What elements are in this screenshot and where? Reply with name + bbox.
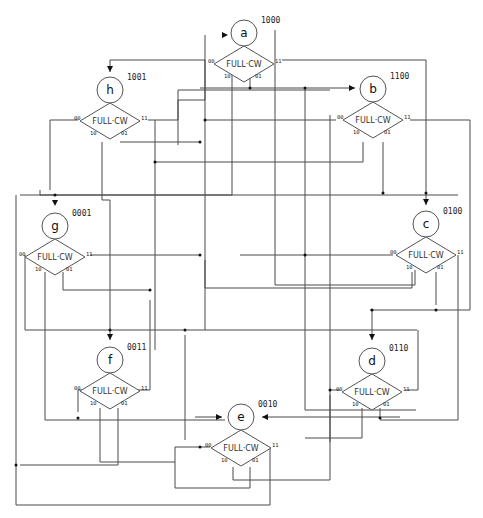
port-label-right: 11 <box>141 115 148 121</box>
port-label-bottom-left: 10 <box>406 264 413 270</box>
state-letter: h <box>106 83 114 97</box>
state-letter: b <box>369 82 377 96</box>
port-label-left: 00 <box>390 249 397 255</box>
port-label-bottom-left: 10 <box>224 73 231 79</box>
condition-label: FULL·CW <box>37 253 73 262</box>
port-label-bottom-right: 01 <box>121 400 128 406</box>
state-code: 0100 <box>443 207 462 216</box>
port-label-left: 00 <box>74 115 81 121</box>
state-letter: e <box>237 410 244 424</box>
port-label-bottom-left: 10 <box>90 400 97 406</box>
state-e: e0010FULL·CW00111001 <box>205 400 279 466</box>
condition-label: FULL·CW <box>354 388 390 397</box>
condition-label: FULL·CW <box>92 387 128 396</box>
condition-label: FULL·CW <box>226 60 262 69</box>
state-nodes: a1000FULL·CW00111001h1001FULL·CW00111001… <box>19 16 464 466</box>
port-label-right: 11 <box>272 442 279 448</box>
port-label-bottom-right: 01 <box>383 401 390 407</box>
port-label-left: 00 <box>336 386 343 392</box>
condition-label: FULL·CW <box>408 251 444 260</box>
state-g: g0001FULL·CW00111001 <box>19 209 93 275</box>
port-label-bottom-right: 01 <box>384 129 391 135</box>
condition-label: FULL·CW <box>92 117 128 126</box>
state-f: f0011FULL·CW00111001 <box>74 343 148 409</box>
state-b: b1100FULL·CW00111001 <box>337 72 411 138</box>
port-label-left: 00 <box>74 385 81 391</box>
port-label-right: 11 <box>86 251 93 257</box>
state-code: 0110 <box>389 344 408 353</box>
port-label-bottom-right: 01 <box>66 266 73 272</box>
port-label-bottom-left: 10 <box>221 457 228 463</box>
state-c: c0100FULL·CW00111001 <box>390 207 464 273</box>
port-label-right: 11 <box>457 249 464 255</box>
state-letter: a <box>240 26 247 40</box>
port-label-bottom-left: 10 <box>352 401 359 407</box>
state-code: 1000 <box>261 16 280 25</box>
state-letter: d <box>368 354 376 368</box>
port-label-left: 00 <box>208 58 215 64</box>
port-label-right: 11 <box>403 386 410 392</box>
port-label-left: 00 <box>19 251 26 257</box>
state-h: h1001FULL·CW00111001 <box>74 73 148 139</box>
state-diagram: a1000FULL·CW00111001h1001FULL·CW00111001… <box>0 0 483 518</box>
port-label-right: 11 <box>404 114 411 120</box>
state-a: a1000FULL·CW00111001 <box>208 16 282 82</box>
port-label-bottom-right: 01 <box>252 457 259 463</box>
state-letter: g <box>51 219 59 233</box>
state-letter: c <box>423 217 430 231</box>
state-code: 0001 <box>72 209 91 218</box>
condition-label: FULL·CW <box>223 444 259 453</box>
port-label-bottom-right: 01 <box>437 264 444 270</box>
port-label-left: 00 <box>337 114 344 120</box>
port-label-right: 11 <box>141 385 148 391</box>
condition-label: FULL·CW <box>355 116 391 125</box>
state-code: 0011 <box>127 343 146 352</box>
state-code: 1001 <box>127 73 146 82</box>
port-label-bottom-right: 01 <box>255 73 262 79</box>
state-code: 0010 <box>258 400 277 409</box>
state-code: 1100 <box>390 72 409 81</box>
port-label-left: 00 <box>205 442 212 448</box>
port-label-bottom-left: 10 <box>35 266 42 272</box>
port-label-bottom-right: 01 <box>121 130 128 136</box>
state-d: d0110FULL·CW00111001 <box>336 344 410 410</box>
port-label-bottom-left: 10 <box>90 130 97 136</box>
port-label-bottom-left: 10 <box>353 129 360 135</box>
port-label-right: 11 <box>275 58 282 64</box>
